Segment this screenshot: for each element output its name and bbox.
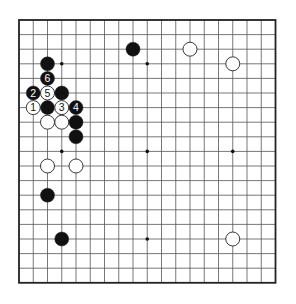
white-stone-icon bbox=[41, 115, 55, 129]
black-stone bbox=[69, 115, 83, 129]
white-stone bbox=[55, 115, 69, 129]
white-stone-icon bbox=[41, 159, 55, 173]
move-number-label: 5 bbox=[45, 87, 51, 99]
black-stone-icon bbox=[41, 188, 55, 202]
black-stone-4: 4 bbox=[69, 101, 83, 115]
move-number-label: 6 bbox=[45, 72, 51, 84]
star-point-icon bbox=[60, 150, 64, 154]
move-number-label: 3 bbox=[59, 101, 65, 113]
move-number-label: 2 bbox=[30, 87, 36, 99]
move-number-label: 1 bbox=[30, 101, 36, 113]
star-point-icon bbox=[145, 150, 149, 154]
white-stone-5: 5 bbox=[41, 86, 55, 100]
black-stone-icon bbox=[126, 42, 140, 56]
black-stone-6: 6 bbox=[41, 71, 55, 85]
black-stone-icon bbox=[69, 130, 83, 144]
white-stone-3: 3 bbox=[55, 101, 69, 115]
white-stone bbox=[226, 57, 240, 71]
white-stone bbox=[69, 159, 83, 173]
white-stone-icon bbox=[69, 159, 83, 173]
star-point-icon bbox=[231, 150, 235, 154]
go-board: 625134 bbox=[0, 0, 296, 304]
black-stone bbox=[41, 101, 55, 115]
black-stone-2: 2 bbox=[26, 86, 40, 100]
black-stone-icon bbox=[41, 57, 55, 71]
move-number-label: 4 bbox=[73, 101, 79, 113]
black-stone bbox=[41, 188, 55, 202]
black-stone-icon bbox=[55, 232, 69, 246]
black-stone-icon bbox=[55, 86, 69, 100]
white-stone-1: 1 bbox=[26, 101, 40, 115]
black-stone bbox=[126, 42, 140, 56]
star-point-icon bbox=[145, 62, 149, 66]
black-stone bbox=[55, 232, 69, 246]
black-stone-icon bbox=[41, 101, 55, 115]
white-stone bbox=[183, 42, 197, 56]
white-stone bbox=[41, 115, 55, 129]
white-stone bbox=[41, 159, 55, 173]
white-stone-icon bbox=[226, 57, 240, 71]
black-stone-icon bbox=[69, 115, 83, 129]
white-stone-icon bbox=[226, 232, 240, 246]
black-stone bbox=[41, 57, 55, 71]
star-point-icon bbox=[145, 237, 149, 241]
black-stone bbox=[55, 86, 69, 100]
white-stone bbox=[226, 232, 240, 246]
black-stone bbox=[69, 130, 83, 144]
star-point-icon bbox=[60, 62, 64, 66]
white-stone-icon bbox=[183, 42, 197, 56]
white-stone-icon bbox=[55, 115, 69, 129]
